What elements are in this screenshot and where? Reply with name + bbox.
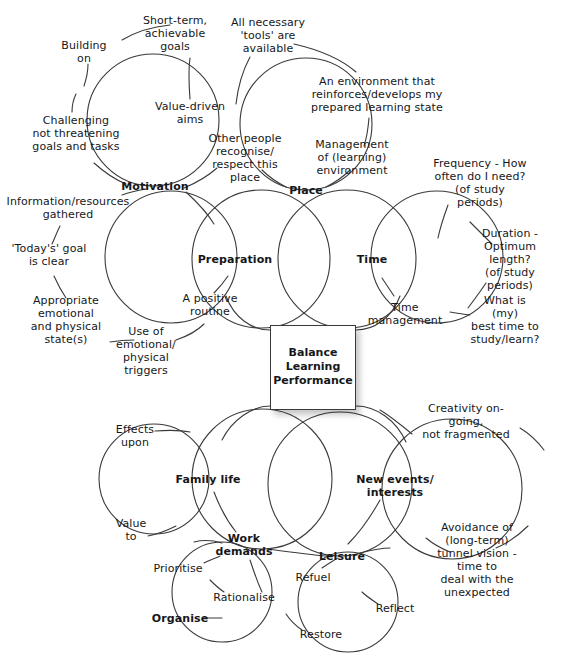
leaf-label-organise[interactable]: Organise <box>152 612 208 625</box>
leaf-label-frequency[interactable]: Frequency - How often do I need? (of stu… <box>433 157 527 209</box>
leaf-label-value-to[interactable]: Value to <box>116 517 147 543</box>
hub-label-preparation[interactable]: Preparation <box>198 253 273 266</box>
connector-c-events-down <box>348 500 380 544</box>
connector-c-prep-leaf <box>214 276 228 293</box>
connector-c-valuedriven-1 <box>189 58 190 99</box>
leaf-label-value-driven-aims[interactable]: Value-driven aims <box>155 100 225 126</box>
connector-c-challenge-stem <box>72 94 76 112</box>
leaf-label-short-term-goals[interactable]: Short-term, achievable goals <box>143 14 207 53</box>
leaf-label-prioritise[interactable]: Prioritise <box>153 562 202 575</box>
leaf-label-reflect[interactable]: Reflect <box>376 602 415 615</box>
leaf-label-effects-upon[interactable]: Effects upon <box>116 423 154 449</box>
connector-c-creativity-r <box>520 428 544 450</box>
hub-label-family-life[interactable]: Family life <box>175 473 240 486</box>
leaf-label-time-management[interactable]: Time management <box>368 301 443 327</box>
leaf-label-appropriate-state[interactable]: Appropriate emotional and physical state… <box>31 294 102 346</box>
leaf-label-best-time[interactable]: What is (my) best time to study/learn? <box>470 294 539 346</box>
connector-c-useof-right <box>176 324 204 340</box>
connector-c-timemgmt-stem <box>382 278 394 296</box>
connector-c-work-down <box>250 560 262 592</box>
connector-c-effects-stem <box>155 430 190 432</box>
connector-c-tools-stem <box>236 57 250 104</box>
leaf-label-management-env[interactable]: Management of (learning) environment <box>315 138 388 177</box>
hub-label-new-events[interactable]: New events/ interests <box>356 473 434 499</box>
mindmap-canvas: Balance Learning Performance MotivationP… <box>0 0 574 660</box>
center-node-balance-learning-performance[interactable]: Balance Learning Performance <box>270 325 356 410</box>
leaf-label-restore[interactable]: Restore <box>300 628 342 641</box>
leaf-label-building-on[interactable]: Building on <box>61 39 106 65</box>
leaf-label-avoidance[interactable]: Avoidance of (long-term) tunnel vision -… <box>429 521 526 599</box>
box-connector-b-events-box <box>356 406 406 442</box>
connector-c-freq-stem <box>438 205 448 238</box>
leaf-label-todays-goal[interactable]: 'Today's' goal is clear <box>11 242 86 268</box>
hub-label-motivation[interactable]: Motivation <box>121 180 189 193</box>
leaf-label-positive-routine[interactable]: A positive routine <box>182 292 237 318</box>
connector-c-motiv-down <box>186 192 214 224</box>
leaf-label-creativity[interactable]: Creativity on-going, not fragmented <box>412 402 520 441</box>
hub-label-place[interactable]: Place <box>289 184 323 197</box>
leaf-label-all-tools[interactable]: All necessary 'tools' are available <box>231 16 305 55</box>
leaf-label-info-resources[interactable]: Information/resources gathered <box>7 195 130 221</box>
leaf-label-rationalise[interactable]: Rationalise <box>213 591 275 604</box>
leaf-label-duration[interactable]: Duration - Optimum length? (of study per… <box>478 227 542 292</box>
leaf-label-refuel[interactable]: Refuel <box>295 571 330 584</box>
connector-c-building-stem <box>84 64 88 86</box>
connector-c-family-down <box>214 492 236 532</box>
hub-label-work-demands[interactable]: Work demands <box>215 532 272 558</box>
connector-c-besttime-stem <box>450 312 470 315</box>
leaf-label-environment-reinforce[interactable]: An environment that reinforces/develops … <box>311 75 443 114</box>
connector-c-creativity-arc <box>380 410 412 434</box>
hub-label-time[interactable]: Time <box>357 253 388 266</box>
center-node-label: Balance Learning Performance <box>273 346 352 388</box>
leaf-label-other-people[interactable]: Other people recognise/ respect this pla… <box>208 132 281 184</box>
leaf-label-use-of-triggers[interactable]: Use of emotional/ physical triggers <box>116 325 176 377</box>
leaf-label-challenging[interactable]: Challenging not threatening goals and ta… <box>32 114 119 153</box>
hub-label-leisure[interactable]: Leisure <box>319 550 365 563</box>
